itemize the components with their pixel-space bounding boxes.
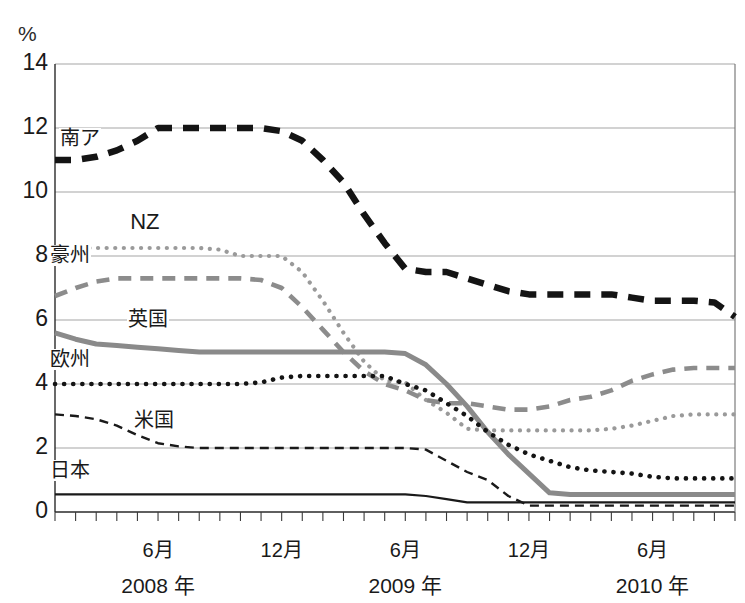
x-axis-year-label: 2008 年 bbox=[121, 569, 195, 599]
series-label-new_zealand: NZ bbox=[129, 210, 160, 233]
y-axis-tick-label: 14 bbox=[4, 51, 48, 74]
y-axis-tick-label: 8 bbox=[4, 243, 48, 266]
series-label-japan: 日本 bbox=[49, 460, 91, 481]
y-axis-tick-label: 2 bbox=[4, 435, 48, 458]
x-axis-month-label: 6月 bbox=[390, 534, 421, 563]
y-axis-tick-labels: 02468101214 bbox=[0, 0, 48, 603]
x-axis-month-label: 12月 bbox=[261, 534, 303, 563]
x-axis-month-label: 6月 bbox=[637, 534, 668, 563]
x-axis-year-label: 2009 年 bbox=[369, 569, 443, 599]
x-axis-year-label: 2010 年 bbox=[616, 569, 690, 599]
y-axis-tick-label: 12 bbox=[4, 115, 48, 138]
series-label-usa: 米国 bbox=[133, 410, 175, 431]
y-axis-tick-label: 6 bbox=[4, 307, 48, 330]
y-axis-tick-label: 10 bbox=[4, 179, 48, 202]
line-chart-plot bbox=[0, 0, 745, 603]
series-label-europe: 欧州 bbox=[49, 349, 91, 370]
x-axis-month-label: 6月 bbox=[142, 534, 173, 563]
x-axis-month-label: 12月 bbox=[508, 534, 550, 563]
y-axis-tick-label: 0 bbox=[4, 499, 48, 522]
series-label-uk: 英国 bbox=[127, 309, 169, 330]
y-axis-tick-label: 4 bbox=[4, 371, 48, 394]
series-line-new_zealand bbox=[55, 248, 735, 430]
series-label-australia: 豪州 bbox=[49, 245, 91, 266]
series-label-south_africa: 南ア bbox=[59, 128, 101, 149]
chart-container: % 02468101214 6月12月6月12月6月2008 年2009 年20… bbox=[0, 0, 745, 603]
